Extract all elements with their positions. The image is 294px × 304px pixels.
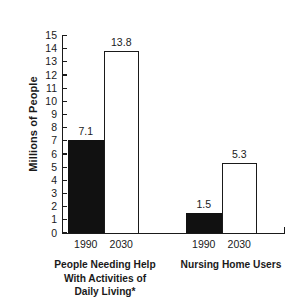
y-axis-tick-label: 2: [35, 201, 57, 211]
y-axis-tick: [62, 219, 67, 220]
y-axis-tick-label: 1: [35, 214, 57, 224]
bar-value-label: 13.8: [99, 37, 143, 48]
group-caption-nursing-home-users: Nursing Home Users: [172, 258, 290, 272]
y-axis-tick-label-wrap: 9: [33, 109, 57, 119]
y-axis-tick-label-wrap: 15: [33, 30, 57, 40]
bar-people-needing-help-2030: [104, 51, 140, 233]
y-axis-tick-label: 13: [35, 56, 57, 66]
y-axis-tick: [62, 114, 67, 115]
y-axis-tick: [62, 140, 67, 141]
y-axis-tick: [62, 88, 67, 89]
y-axis-tick: [62, 74, 67, 75]
y-axis-tick-label: 12: [35, 70, 57, 80]
y-axis-tick-label-wrap: 13: [33, 56, 57, 66]
y-axis-tick: [62, 206, 67, 207]
y-axis-tick: [62, 193, 67, 194]
bar-chart: Millions of People 151413121110987654321…: [0, 0, 294, 304]
y-axis-tick-label-wrap: 0: [33, 228, 57, 238]
y-axis-tick-label-wrap: 10: [33, 96, 57, 106]
y-axis-tick: [62, 35, 67, 36]
y-axis-tick: [62, 180, 67, 181]
y-axis-tick-label: 0: [35, 228, 57, 238]
y-axis-tick-label: 7: [35, 135, 57, 145]
y-axis-tick-label-wrap: 5: [33, 162, 57, 172]
caption-line: With Activities of: [38, 272, 172, 286]
y-axis-tick-label-wrap: 14: [33, 43, 57, 53]
bar-value-label: 7.1: [64, 126, 108, 137]
y-axis-tick-label-wrap: 11: [33, 83, 57, 93]
group-caption-people-needing-help: People Needing Help With Activities of D…: [38, 258, 172, 299]
y-axis-tick: [62, 61, 67, 62]
caption-line: Nursing Home Users: [172, 258, 290, 272]
y-axis-tick-label: 3: [35, 188, 57, 198]
y-axis-tick-label-wrap: 4: [33, 175, 57, 185]
y-axis-tick-label: 8: [35, 122, 57, 132]
bar-value-label: 5.3: [217, 149, 261, 160]
y-axis-tick-label: 15: [35, 30, 57, 40]
y-axis-tick: [62, 167, 67, 168]
y-axis-tick-label: 6: [35, 149, 57, 159]
y-axis-tick-label: 10: [35, 96, 57, 106]
bar-value-label: 1.5: [182, 199, 226, 210]
bar-nursing-home-users-1990: [186, 213, 222, 233]
y-axis-tick-label-wrap: 3: [33, 188, 57, 198]
y-axis-tick-label-wrap: 2: [33, 201, 57, 211]
y-axis-tick: [62, 153, 67, 154]
caption-line: People Needing Help: [38, 258, 172, 272]
y-axis-tick-label: 4: [35, 175, 57, 185]
y-axis-tick-label-wrap: 6: [33, 149, 57, 159]
y-axis-tick-label-wrap: 1: [33, 214, 57, 224]
y-axis-tick-label-wrap: 8: [33, 122, 57, 132]
y-axis-tick-label: 5: [35, 162, 57, 172]
y-axis-tick: [62, 232, 67, 233]
bar-people-needing-help-1990: [68, 140, 104, 233]
x-axis-end-tick: [284, 227, 285, 234]
y-axis-tick-label-wrap: 7: [33, 135, 57, 145]
caption-line: Daily Living*: [38, 285, 172, 299]
x-axis-line: [62, 233, 285, 234]
y-axis-tick-label: 11: [35, 83, 57, 93]
x-axis-tick-label: 2030: [217, 238, 261, 250]
y-axis-tick: [62, 101, 67, 102]
y-axis-tick-label-wrap: 12: [33, 70, 57, 80]
y-axis-tick-label: 14: [35, 43, 57, 53]
y-axis-tick: [62, 48, 67, 49]
y-axis-tick-label: 9: [35, 109, 57, 119]
bar-nursing-home-users-2030: [222, 163, 258, 233]
x-axis-tick-label: 2030: [99, 238, 143, 250]
